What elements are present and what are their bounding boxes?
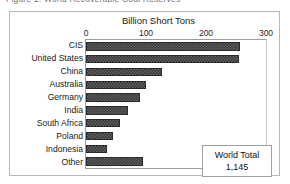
- x-axis-tick-300: 300: [259, 28, 273, 38]
- bar-germany: [86, 93, 140, 102]
- y-axis-label-germany: Germany: [16, 92, 85, 103]
- y-axis-label-south-africa: South Africa: [16, 118, 85, 129]
- y-axis-label-australia: Australia: [16, 79, 85, 90]
- bar-slot: [86, 66, 266, 77]
- y-axis-label-poland: Poland: [16, 131, 85, 142]
- bar-china: [86, 68, 162, 77]
- world-total-label: World Total: [215, 149, 260, 161]
- x-axis-tick-100: 100: [139, 28, 153, 38]
- bar-india: [86, 106, 128, 115]
- y-axis-category-labels: CISUnited StatesChinaAustraliaGermanyInd…: [16, 39, 85, 169]
- bar-slot: [86, 41, 266, 52]
- bar-slot: [86, 54, 266, 65]
- y-axis-label-india: India: [16, 105, 85, 116]
- bar-indonesia: [86, 145, 107, 154]
- world-total-annotation: World Total 1,145: [202, 145, 272, 177]
- bar-slot: [86, 118, 266, 129]
- x-axis-title: Billion Short Tons: [10, 15, 279, 26]
- bar-united-states: [86, 55, 239, 64]
- bar-australia: [86, 81, 146, 90]
- y-axis-label-cis: CIS: [16, 40, 85, 51]
- bar-poland: [86, 132, 113, 141]
- figure-caption-strip: Figure 1. World Recoverable Coal Reserve…: [0, 0, 290, 10]
- bar-slot: [86, 79, 266, 90]
- bar-slot: [86, 92, 266, 103]
- y-axis-label-china: China: [16, 66, 85, 77]
- bar-south-africa: [86, 119, 120, 128]
- bar-other: [86, 157, 143, 166]
- x-axis-tick-0: 0: [84, 28, 89, 38]
- y-axis-label-united-states: United States: [16, 53, 85, 64]
- x-axis-tick-row: 0100200300: [10, 28, 279, 39]
- figure-caption: Figure 1. World Recoverable Coal Reserve…: [6, 0, 180, 4]
- chart-frame: Billion Short Tons 0100200300 CISUnited …: [9, 11, 280, 176]
- bar-slot: [86, 105, 266, 116]
- bar-cis: [86, 42, 240, 51]
- y-axis-label-indonesia: Indonesia: [16, 144, 85, 155]
- x-axis-tick-200: 200: [199, 28, 213, 38]
- bar-slot: [86, 130, 266, 141]
- y-axis-label-other: Other: [16, 157, 85, 168]
- world-total-value: 1,145: [226, 161, 249, 173]
